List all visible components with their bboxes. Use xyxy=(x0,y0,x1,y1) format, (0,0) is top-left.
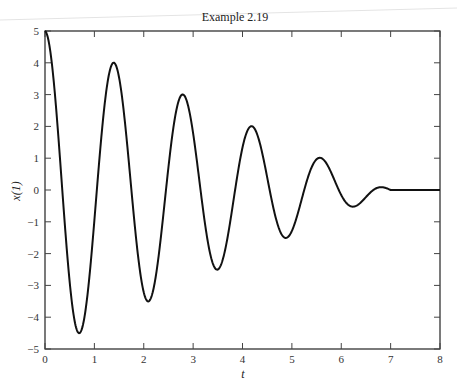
y-tick-label: −5 xyxy=(27,343,39,355)
y-tick-label: 1 xyxy=(34,152,40,164)
y-tick-label: −3 xyxy=(27,279,39,291)
y-tick-label: −2 xyxy=(27,248,39,260)
x-tick-label: 7 xyxy=(388,353,394,365)
plot-axes xyxy=(45,31,440,349)
x-tick-label: 5 xyxy=(289,353,295,365)
x-tick-label: 8 xyxy=(437,353,443,365)
y-tick-label: −4 xyxy=(27,311,39,323)
y-tick-label: 0 xyxy=(34,184,40,196)
x-tick-label: 1 xyxy=(92,353,98,365)
x-tick-label: 0 xyxy=(42,353,48,365)
x-tick-label: 6 xyxy=(339,353,345,365)
y-tick-label: −1 xyxy=(27,216,39,228)
y-tick-label: 5 xyxy=(34,25,40,37)
chart-title: Example 2.19 xyxy=(202,10,269,24)
y-axis-label: x(1) xyxy=(9,181,23,201)
data-line xyxy=(45,31,440,333)
chart: Example 2.19 012345678−5−4−3−2−1012345 t… xyxy=(0,0,457,388)
plot-frame xyxy=(45,31,440,349)
x-tick-label: 4 xyxy=(240,353,246,365)
x-tick-label: 2 xyxy=(141,353,147,365)
y-tick-label: 4 xyxy=(34,57,40,69)
x-axis-label: t xyxy=(241,367,245,381)
y-tick-label: 2 xyxy=(34,120,40,132)
x-tick-label: 3 xyxy=(190,353,196,365)
y-tick-label: 3 xyxy=(34,89,40,101)
